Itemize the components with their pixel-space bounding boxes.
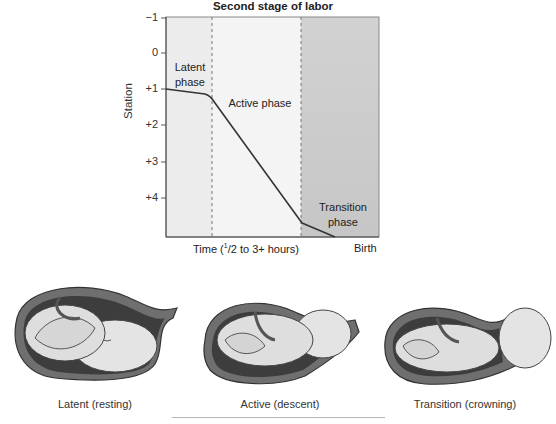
- active-caption: Active (descent): [195, 398, 365, 410]
- latent-fetus-illustration: [5, 278, 180, 388]
- transition-phase-label: Transition phase: [310, 200, 376, 230]
- y-tick-plus4: +4: [134, 191, 158, 203]
- transition-caption: Transition (crowning): [380, 398, 550, 410]
- active-fetus-illustration: [195, 290, 370, 390]
- x-axis-end-label: Birth: [354, 242, 377, 254]
- y-tick-plus3: +3: [134, 155, 158, 167]
- y-tick-0: 0: [134, 46, 158, 58]
- bottom-divider: [172, 417, 385, 418]
- latent-phase-label: Latent phase: [170, 60, 210, 90]
- transition-fetus-illustration: [375, 296, 555, 388]
- y-tick-plus1: +1: [134, 82, 158, 94]
- latent-caption: Latent (resting): [10, 398, 180, 410]
- active-phase-label: Active phase: [222, 96, 298, 111]
- latent-region: [166, 17, 212, 237]
- x-axis-label: Time (1/2 to 3+ hours): [193, 242, 299, 255]
- station-chart: [0, 0, 556, 260]
- y-tick-minus1: −1: [134, 11, 158, 23]
- y-tick-plus2: +2: [134, 118, 158, 130]
- y-axis-label: Station: [122, 71, 134, 131]
